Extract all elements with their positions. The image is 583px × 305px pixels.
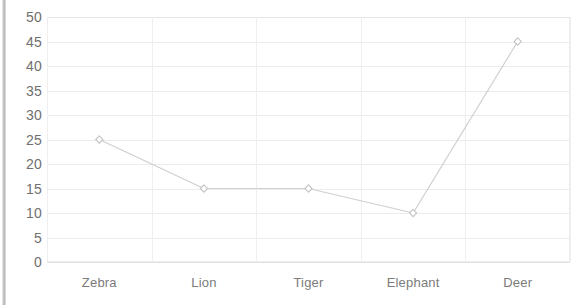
- gridline-x-0: [47, 17, 48, 262]
- gridline-y-50: [47, 17, 570, 18]
- y-tick-label: 0: [2, 255, 42, 269]
- gridline-y-15: [47, 189, 570, 190]
- gridline-y-45: [47, 42, 570, 43]
- gridline-y-25: [47, 140, 570, 141]
- y-tick-label: 5: [2, 231, 42, 245]
- gridline-x-1: [152, 17, 153, 262]
- y-tick-label: 15: [2, 182, 42, 196]
- x-tick-label-lion: Lion: [191, 276, 216, 290]
- gridline-y-40: [47, 66, 570, 67]
- gridline-x-3: [361, 17, 362, 262]
- gridline-x-5: [570, 17, 571, 262]
- y-tick-label: 35: [2, 84, 42, 98]
- gridline-x-4: [465, 17, 466, 262]
- gridline-y-0: [47, 262, 570, 263]
- y-tick-label: 10: [2, 206, 42, 220]
- y-tick-label: 20: [2, 157, 42, 171]
- y-tick-label: 30: [2, 108, 42, 122]
- x-tick-label-deer: Deer: [503, 276, 532, 290]
- line-chart: 50454035302520151050 ZebraLionTigerEleph…: [0, 0, 583, 305]
- gridline-y-30: [47, 115, 570, 116]
- y-tick-label: 45: [2, 35, 42, 49]
- x-tick-label-zebra: Zebra: [82, 276, 117, 290]
- y-tick-label: 25: [2, 133, 42, 147]
- gridline-y-20: [47, 164, 570, 165]
- x-tick-label-elephant: Elephant: [387, 276, 440, 290]
- gridline-y-5: [47, 238, 570, 239]
- gridline-y-35: [47, 91, 570, 92]
- x-tick-label-tiger: Tiger: [293, 276, 323, 290]
- y-tick-label: 40: [2, 59, 42, 73]
- gridline-x-2: [256, 17, 257, 262]
- gridline-y-10: [47, 213, 570, 214]
- y-tick-label: 50: [2, 10, 42, 24]
